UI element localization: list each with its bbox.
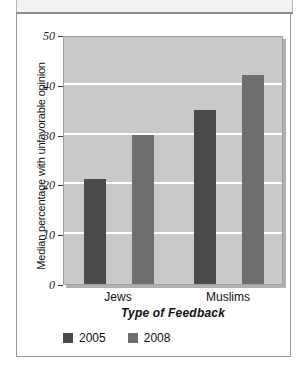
x-axis-title: Type of Feedback (63, 306, 283, 320)
y-tick-mark-50 (58, 36, 63, 37)
bar-body (242, 75, 264, 284)
bar-muslims-2008 (242, 75, 264, 284)
chart-legend: 20052008 (63, 331, 170, 345)
bar-jews-2005 (84, 179, 106, 284)
y-tick-mark-10 (58, 235, 63, 236)
legend-item-2005: 2005 (63, 331, 106, 345)
legend-swatch-2008 (128, 333, 138, 343)
legend-label-2005: 2005 (79, 331, 106, 345)
y-axis-title: Median percentage with unfavorable opini… (35, 51, 47, 281)
chart-figure: 01020304050 Median percentage with unfav… (0, 0, 308, 373)
y-tick-mark-30 (58, 136, 63, 137)
bar-body (132, 135, 154, 284)
bar-muslims-2005 (194, 110, 216, 284)
legend-swatch-2005 (63, 333, 73, 343)
plot-area (63, 36, 283, 285)
y-tick-mark-20 (58, 185, 63, 186)
y-tick-label-50: 50 (25, 29, 55, 44)
bar-body (84, 179, 106, 284)
legend-item-2008: 2008 (128, 331, 171, 345)
y-tick-mark-40 (58, 86, 63, 87)
bar-jews-2008 (132, 135, 154, 284)
bar-body (194, 110, 216, 284)
legend-label-2008: 2008 (144, 331, 171, 345)
y-tick-mark-0 (58, 285, 63, 286)
header-strip (16, 0, 293, 12)
x-category-label-muslims: Muslims (206, 290, 250, 304)
x-category-label-jews: Jews (104, 290, 131, 304)
